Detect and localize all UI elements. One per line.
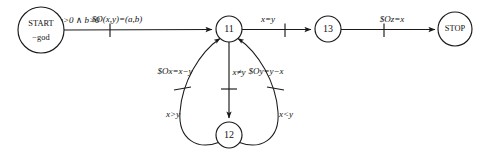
node-start-label-line1: START [28,19,53,28]
state-diagram-container: a>0 ∧ b>0 $O(x,y)=(a,b) x=y $Oz=x x≠y $O… [0,0,479,157]
node-12[interactable]: 12 [216,122,242,148]
edge-12-to-11-right-action: $Oy=y−x [248,66,283,76]
node-13[interactable]: 13 [315,16,341,42]
edge-12-to-11-left-tick [174,87,191,90]
node-start-circle[interactable] [18,7,64,53]
edge-12-to-11-right-curve [238,39,278,145]
edge-12-to-11-right-guard: x<y [278,109,293,119]
edge-11-to-12-middle: x≠y [221,42,245,118]
node-11-label: 11 [224,23,234,34]
edge-12-to-11-left: $Ox=x−y x>y [157,39,220,145]
edge-11-to-13: x=y [242,14,311,37]
edge-12-to-11-left-action: $Ox=x−y [157,66,192,76]
node-start[interactable]: START −god [18,7,64,53]
edge-11-to-13-guard: x=y [260,14,275,24]
edge-13-to-stop: $Oz=x [341,14,435,37]
edge-12-to-11-right: $Oy=y−x x<y [238,39,293,145]
edge-12-to-11-left-guard: x>y [165,109,180,119]
node-start-label-line2: −god [32,33,50,42]
state-diagram-canvas: a>0 ∧ b>0 $O(x,y)=(a,b) x=y $Oz=x x≠y $O… [0,0,479,157]
node-13-label: 13 [323,23,333,34]
node-stop[interactable]: STOP [438,12,472,46]
edge-start-to-11-action: $O(x,y)=(a,b) [92,14,143,24]
edge-13-to-stop-action: $Oz=x [380,14,405,24]
edge-12-to-11-right-tick [267,87,284,90]
edge-11-to-12-guard: x≠y [232,67,246,77]
edge-12-to-11-left-curve [180,39,220,145]
node-stop-label: STOP [445,24,466,33]
node-11[interactable]: 11 [216,16,242,42]
edge-start-to-11: a>0 ∧ b>0 $O(x,y)=(a,b) [58,14,212,37]
node-12-label: 12 [224,129,234,140]
edge-start-to-11-line [64,30,212,31]
